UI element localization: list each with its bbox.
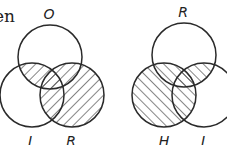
left-venn: O I R bbox=[0, 6, 104, 145]
right-venn: R H I bbox=[132, 4, 227, 145]
label-i: I bbox=[28, 133, 32, 145]
venn-diagrams: O I R R H I bbox=[0, 0, 227, 145]
label-r: R bbox=[178, 4, 188, 20]
label-h: H bbox=[159, 133, 170, 145]
label-r: R bbox=[66, 133, 76, 145]
label-o: O bbox=[43, 6, 54, 22]
label-i: I bbox=[201, 133, 205, 145]
